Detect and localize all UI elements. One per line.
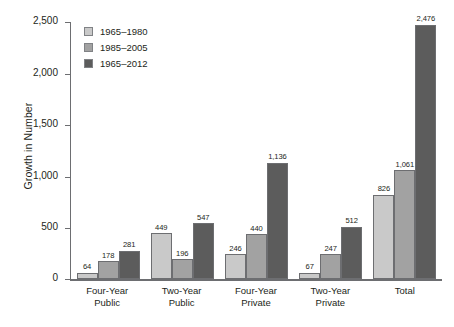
bar[interactable] xyxy=(151,233,172,279)
category-label-line2: Private xyxy=(299,297,362,309)
bar-column: 547 xyxy=(193,22,214,279)
category-label-line2: Private xyxy=(224,297,287,309)
y-tick-1000: 1,000 xyxy=(65,177,70,178)
bar[interactable] xyxy=(267,163,288,280)
bar-column: 246 xyxy=(225,22,246,279)
y-tick-2000: 2,000 xyxy=(65,74,70,75)
bar-value-label: 512 xyxy=(345,216,357,225)
category-label-line1: Total xyxy=(373,285,436,297)
bar[interactable] xyxy=(394,170,415,279)
bar-column: 1,136 xyxy=(267,22,288,279)
y-tick-label: 0 xyxy=(52,272,58,283)
bar-value-label: 547 xyxy=(197,213,209,222)
bar-value-label: 440 xyxy=(250,224,262,233)
bar-column: 281 xyxy=(119,22,140,279)
bar-groups: 641782814491965472464401,136672475128261… xyxy=(71,22,442,279)
x-axis-category-labels: Four-YearPublicTwo-YearPublicFour-YearPr… xyxy=(70,285,442,309)
y-tick-2500: 2,500 xyxy=(65,22,70,23)
y-tick-label: 1,000 xyxy=(33,170,58,181)
bar-column: 247 xyxy=(320,22,341,279)
bar-column: 196 xyxy=(172,22,193,279)
category-label: Two-YearPrivate xyxy=(299,285,362,309)
bar[interactable] xyxy=(246,234,267,279)
bar-group: 67247512 xyxy=(299,22,362,279)
bar-column: 1,061 xyxy=(394,22,415,279)
category-label-line2: Public xyxy=(76,297,139,309)
category-label-line1: Four-Year xyxy=(224,285,287,297)
bar-column: 2,476 xyxy=(415,22,436,279)
y-axis-title: Growth in Number xyxy=(22,56,34,236)
bar-value-label: 67 xyxy=(306,262,314,271)
bar-column: 826 xyxy=(373,22,394,279)
bar[interactable] xyxy=(119,251,140,280)
bar[interactable] xyxy=(77,273,98,280)
bar-value-label: 826 xyxy=(378,184,390,193)
y-tick-label: 2,500 xyxy=(33,15,58,26)
bar[interactable] xyxy=(225,254,246,279)
bar-value-label: 178 xyxy=(102,251,114,260)
bar-value-label: 1,136 xyxy=(268,152,287,161)
bar-group: 449196547 xyxy=(151,22,214,279)
bar-column: 440 xyxy=(246,22,267,279)
y-tick-label: 1,500 xyxy=(33,118,58,129)
category-label: Total xyxy=(373,285,436,309)
bar-value-label: 196 xyxy=(176,249,188,258)
category-label-line1: Two-Year xyxy=(299,285,362,297)
bar[interactable] xyxy=(320,254,341,279)
bar-value-label: 247 xyxy=(324,244,336,253)
category-label: Two-YearPublic xyxy=(150,285,213,309)
category-label: Four-YearPublic xyxy=(76,285,139,309)
y-tick-1500: 1,500 xyxy=(65,125,70,126)
bar-group: 8261,0612,476 xyxy=(373,22,436,279)
bar[interactable] xyxy=(415,25,436,280)
y-tick-500: 500 xyxy=(65,228,70,229)
x-axis-line xyxy=(70,279,442,281)
plot-area: 05001,0001,5002,0002,500 1965–19801985–2… xyxy=(70,22,442,281)
bar-value-label: 246 xyxy=(229,244,241,253)
bar-value-label: 281 xyxy=(123,240,135,249)
bar-group: 2464401,136 xyxy=(225,22,288,279)
bar-column: 449 xyxy=(151,22,172,279)
bar-column: 178 xyxy=(98,22,119,279)
bar-value-label: 2,476 xyxy=(417,14,436,23)
bar[interactable] xyxy=(98,261,119,279)
bar[interactable] xyxy=(172,259,193,279)
bar-chart-figure: Growth in Number 05001,0001,5002,0002,50… xyxy=(0,0,454,327)
bar-value-label: 449 xyxy=(155,223,167,232)
category-label-line2: Public xyxy=(150,297,213,309)
y-tick-0: 0 xyxy=(65,279,70,280)
y-tick-label: 2,000 xyxy=(33,67,58,78)
bar-value-label: 64 xyxy=(83,262,91,271)
bar-column: 64 xyxy=(77,22,98,279)
category-label-line1: Four-Year xyxy=(76,285,139,297)
bar[interactable] xyxy=(193,223,214,279)
bar-column: 512 xyxy=(341,22,362,279)
category-label: Four-YearPrivate xyxy=(224,285,287,309)
bar-value-label: 1,061 xyxy=(396,160,415,169)
bar[interactable] xyxy=(373,195,394,280)
bar-column: 67 xyxy=(299,22,320,279)
bar[interactable] xyxy=(341,227,362,280)
bar-group: 64178281 xyxy=(77,22,140,279)
bar[interactable] xyxy=(299,273,320,280)
y-tick-label: 500 xyxy=(41,221,58,232)
category-label-line1: Two-Year xyxy=(150,285,213,297)
